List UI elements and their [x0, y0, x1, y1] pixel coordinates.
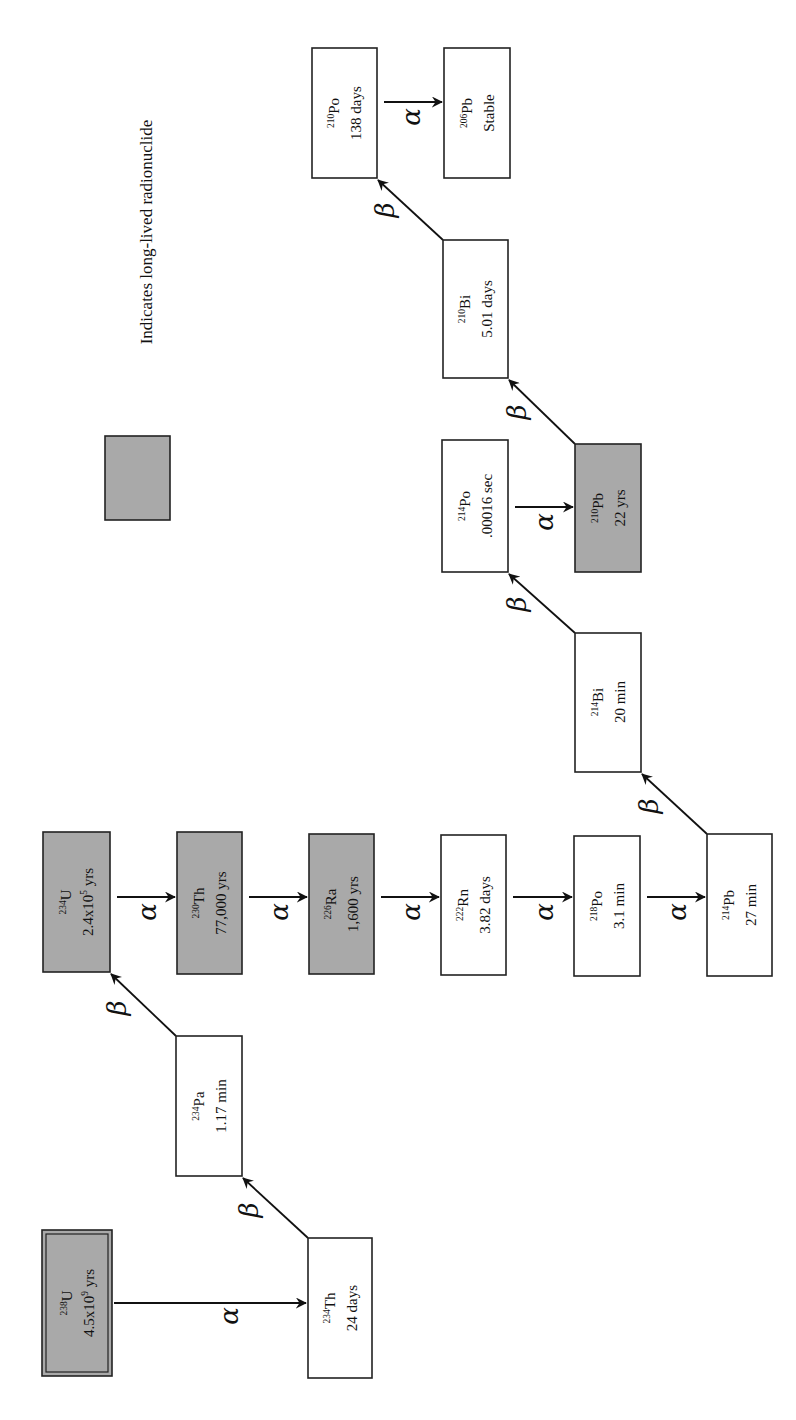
beta-label: β [102, 1000, 132, 1016]
nuclide-po210: 210Po 138 days [312, 48, 377, 178]
alpha-label: α [132, 903, 162, 921]
legend-swatch [105, 436, 170, 520]
nuclide-th230: 230Th 77,000 yrs [177, 832, 242, 974]
half-life: 138 days [348, 86, 364, 140]
alpha-label: α [396, 903, 426, 921]
half-life: Stable [481, 94, 497, 132]
legend-label: Indicates long-lived radionuclide [137, 120, 156, 345]
nuclide-bi210: 210Bi 5.01 days [443, 240, 508, 378]
nuclide-pb210: 210Pb 22 yrs [575, 444, 641, 572]
nuclide-pa234: 234Pa 1.17 min [176, 1036, 242, 1176]
alpha-label: α [214, 1307, 244, 1325]
element-symbol: U [59, 1290, 75, 1301]
beta-label: β [370, 202, 400, 218]
alpha-label: α [264, 903, 294, 921]
beta-label: β [502, 404, 532, 420]
half-life: 77,000 yrs [213, 871, 229, 934]
beta-label: β [634, 798, 664, 814]
half-life: 4.5x10 [81, 1296, 97, 1337]
svg-text:2.4x105 yrs: 2.4x105 yrs [79, 868, 96, 936]
nuclide-rn222: 222Rn 3.82 days [441, 835, 506, 975]
half-life: 1,600 yrs [345, 876, 361, 932]
half-life: 24 days [344, 1285, 360, 1331]
nuclide-ra226: 226Ra 1,600 yrs [309, 834, 374, 974]
nuclide-pb206: 206Pb Stable [444, 48, 510, 178]
nuclide-th234: 234Th 24 days [308, 1238, 372, 1378]
nuclide-u238: 238U 4.5x109 yrs [42, 1230, 112, 1376]
nuclide-po218: 218Po 3.1 min [574, 836, 640, 976]
half-life: 27 min [743, 883, 759, 926]
half-life: .00016 sec [479, 474, 495, 538]
beta-label: β [502, 596, 532, 612]
alpha-label: α [662, 903, 692, 921]
nuclide-po214: 214Po .00016 sec [442, 440, 508, 572]
alpha-label: α [529, 513, 559, 531]
half-life: 3.1 min [611, 883, 627, 929]
nuclide-pb214: 214Pb 27 min [707, 834, 772, 976]
beta-label: β [234, 1202, 264, 1218]
half-life: 1.17 min [213, 1079, 229, 1133]
half-life: 3.82 days [477, 876, 493, 934]
alpha-label: α [529, 903, 559, 921]
alpha-label: α [396, 108, 426, 126]
mass-number: 238 [59, 1301, 69, 1316]
half-life: 20 min [612, 680, 628, 723]
svg-text:4.5x109 yrs: 4.5x109 yrs [80, 1269, 97, 1337]
half-life: 22 yrs [612, 489, 628, 526]
half-life: 5.01 days [479, 280, 495, 338]
decay-chain-diagram: Indicates long-lived radionuclide α [0, 0, 796, 1420]
legend: Indicates long-lived radionuclide [105, 120, 170, 520]
nuclide-bi214: 214Bi 20 min [575, 633, 641, 772]
nuclide-u234: 234U 2.4x105 yrs [43, 832, 110, 972]
half-life-unit: yrs [81, 1269, 97, 1291]
